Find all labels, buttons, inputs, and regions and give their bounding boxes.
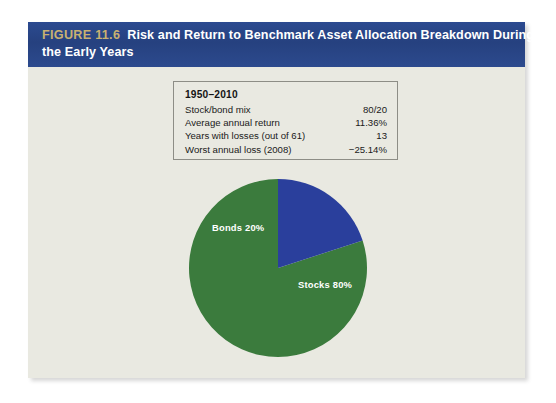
stats-value: −25.14% xyxy=(349,143,387,156)
stats-table-title: 1950–2010 xyxy=(185,89,387,100)
table-row: Years with losses (out of 61) 13 xyxy=(185,129,387,142)
pie-label-stocks: Stocks 80% xyxy=(298,279,352,290)
pie-label-bonds: Bonds 20% xyxy=(212,222,264,233)
figure-number-label: FIGURE 11.6 xyxy=(42,28,120,42)
figure-title-line-1: FIGURE 11.6Risk and Return to Benchmark … xyxy=(42,27,511,44)
stats-value: 80/20 xyxy=(363,103,387,116)
figure-title-text-1: Risk and Return to Benchmark Asset Alloc… xyxy=(127,28,534,42)
stats-value: 11.36% xyxy=(355,116,387,129)
table-row: Worst annual loss (2008) −25.14% xyxy=(185,143,387,156)
stats-label: Average annual return xyxy=(185,116,280,129)
pie-chart-svg xyxy=(188,178,368,358)
table-row: Average annual return 11.36% xyxy=(185,116,387,129)
stats-label: Stock/bond mix xyxy=(185,103,251,116)
stats-value: 13 xyxy=(376,129,387,142)
table-row: Stock/bond mix 80/20 xyxy=(185,103,387,116)
stats-label: Years with losses (out of 61) xyxy=(185,129,305,142)
figure-header-bar: FIGURE 11.6Risk and Return to Benchmark … xyxy=(28,22,525,67)
pie-chart: Bonds 20% Stocks 80% xyxy=(188,178,368,358)
pie-slice-group xyxy=(189,179,367,357)
figure-panel: FIGURE 11.6Risk and Return to Benchmark … xyxy=(28,22,525,378)
stats-label: Worst annual loss (2008) xyxy=(185,143,291,156)
figure-title-line-2: the Early Years xyxy=(42,44,511,61)
stats-table: 1950–2010 Stock/bond mix 80/20 Average a… xyxy=(173,81,398,160)
